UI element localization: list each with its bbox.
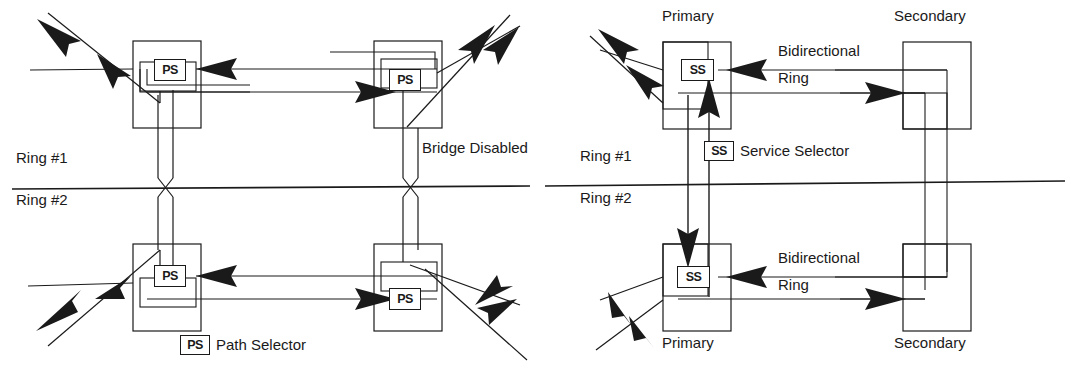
arrowhead-rt-top-2 [626,65,664,100]
bridge-disabled-label: Bridge Disabled [422,140,528,156]
arrowhead-bidir-top-right [865,82,906,104]
legend-ps-symbol-text: PS [187,338,203,352]
legend-ps-text: Path Selector [216,337,306,353]
ps-node-top-right[interactable]: PS [389,69,421,91]
arrowhead-bl-1 [36,290,81,331]
rt-tributary-bottom-b [596,300,663,350]
ps-node-bottom-left-label: PS [162,269,178,283]
left-panel [12,13,530,360]
bidir-top-line1: Bidirectional [778,43,860,59]
legend-ss-symbol: SS [704,141,734,161]
ps-node-top-left-label: PS [162,63,178,77]
legend-ps-symbol: PS [180,335,210,355]
arrowhead-tl-out-1 [37,19,81,57]
right-ring2-label: Ring #2 [580,190,632,206]
arrowhead-tl-out-2 [97,54,131,89]
arrowhead-rt-bottom-2 [629,316,654,348]
legend-ss-text: Service Selector [740,143,849,159]
right-ring1-label: Ring #1 [580,148,632,164]
secondary-bottom-label: Secondary [894,335,966,351]
node-box-secondary-top [903,42,971,129]
bidir-bottom-line2: Ring [778,277,809,293]
arrowhead-bl-2 [95,276,131,299]
arrowhead-top-leftward [196,58,237,80]
arrowhead-up [698,78,720,118]
arrowhead-down [677,228,699,268]
diagram-vector-layer [0,0,1071,375]
ring-divider-right [545,181,1065,186]
arrowhead-rt-bottom-1 [608,292,632,326]
ss-node-bottom-primary[interactable]: SS [677,266,710,288]
bidir-bottom-line1: Bidirectional [778,250,860,266]
diagram-canvas: PS PS PS PS Ring #1 Ring #2 Bridge Disab… [0,0,1071,375]
ps-node-top-left[interactable]: PS [154,59,186,81]
tributary-top-left-out [48,13,160,103]
primary-top-label: Primary [662,8,714,24]
left-ring2-label: Ring #2 [16,192,68,208]
arrowhead-bidir-top-left [726,59,767,81]
node-box-secondary-bottom [903,244,971,331]
primary-bottom-label: Primary [662,335,714,351]
arrowhead-bidir-bottom-left [726,266,767,288]
ring-divider-left [12,186,530,189]
legend-ss-symbol-text: SS [711,144,727,158]
inner-route-top-right [330,52,435,69]
ps-node-bottom-left[interactable]: PS [154,265,186,287]
ss-node-top-primary[interactable]: SS [681,59,714,81]
bidir-top-line2: Ring [778,70,809,86]
tributary-bottom-right-a [425,269,527,360]
ps-node-bottom-right-label: PS [397,292,413,306]
arrowhead-bidir-bottom-right [865,288,906,310]
left-ring1-label: Ring #1 [16,150,68,166]
ps-node-top-right-label: PS [397,73,413,87]
tributary-top-right-a [407,15,510,127]
node-box-bottom-left [133,244,201,331]
ps-node-bottom-right[interactable]: PS [389,288,421,310]
ss-node-top-label: SS [690,63,706,77]
ss-node-bottom-label: SS [686,270,702,284]
node-box-primary-top [663,42,731,129]
arrowhead-bottom-leftward [196,265,237,287]
rt-tributary-top-a [600,50,663,70]
secondary-top-label: Secondary [894,8,966,24]
arrowhead-rt-top-1 [598,29,639,64]
